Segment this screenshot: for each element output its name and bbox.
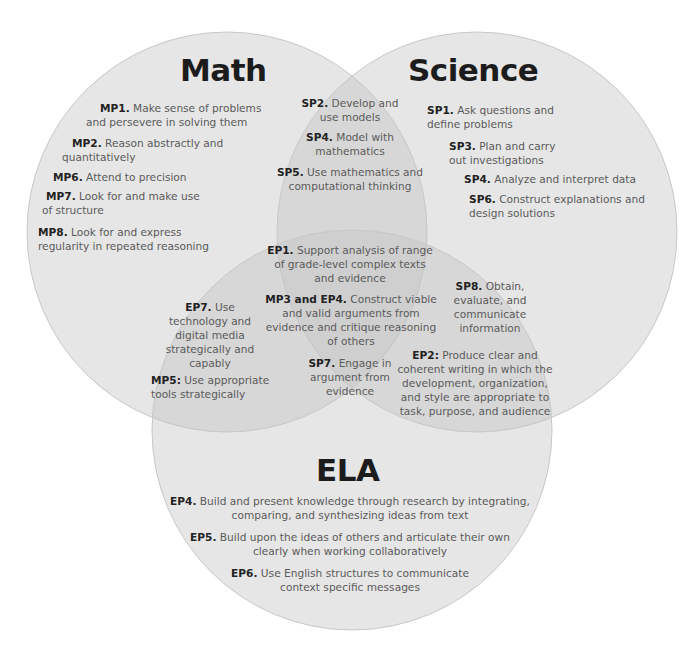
math-item: MP2. Reason abstractly and quantitativel… xyxy=(62,136,232,164)
math-ela-item: EP7. Use technology and digital media st… xyxy=(165,300,255,370)
science-title: Science xyxy=(408,52,538,88)
math-title: Math xyxy=(180,52,267,88)
center-item: SP7. Engage in argument from evidence xyxy=(305,356,395,398)
center-item: EP1. Support analysis of range of grade-… xyxy=(265,243,435,285)
ela-item: EP4. Build and present knowledge through… xyxy=(160,494,540,522)
ela-item: EP6. Use English structures to communica… xyxy=(225,566,475,594)
math-item: MP6. Attend to precision xyxy=(53,170,223,184)
ela-title: ELA xyxy=(316,452,379,488)
science-item: SP6. Construct explanations and design s… xyxy=(469,192,649,220)
ela-item: EP5. Build upon the ideas of others and … xyxy=(185,530,515,558)
math-science-item: SP2. Develop and use models xyxy=(295,96,405,124)
science-item: SP3. Plan and carry out investigations xyxy=(449,139,569,167)
math-item: MP7. Look for and make use of structure xyxy=(42,189,212,217)
math-item: MP1. Make sense of problems and persever… xyxy=(86,101,266,129)
math-ela-item: MP5: Use appropriate tools strategically xyxy=(151,373,281,401)
science-ela-item: EP2: Produce clear and coherent writing … xyxy=(395,348,555,418)
science-item: SP4. Analyze and interpret data xyxy=(464,172,644,186)
science-ela-item: SP8. Obtain, evaluate, and communicate i… xyxy=(445,279,535,335)
center-item: MP3 and EP4. Construct viable and valid … xyxy=(262,292,440,348)
science-item: SP1. Ask questions and define problems xyxy=(427,103,557,131)
math-item: MP8. Look for and express regularity in … xyxy=(38,225,216,253)
math-science-item: SP4. Model with mathematics xyxy=(295,130,405,158)
math-science-item: SP5. Use mathematics and computational t… xyxy=(275,165,425,193)
